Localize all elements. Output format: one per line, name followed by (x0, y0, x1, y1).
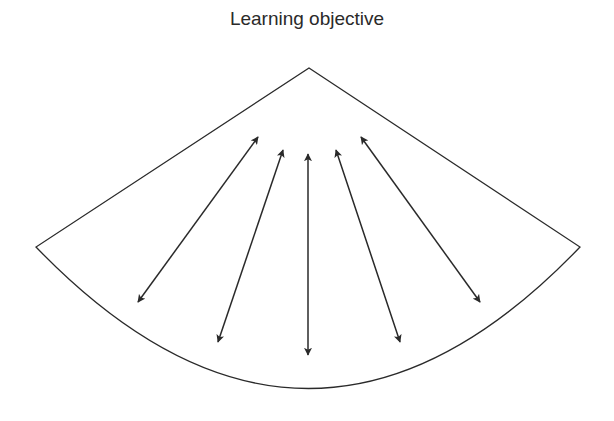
arrows (138, 137, 480, 355)
sector-diagram (0, 0, 614, 421)
